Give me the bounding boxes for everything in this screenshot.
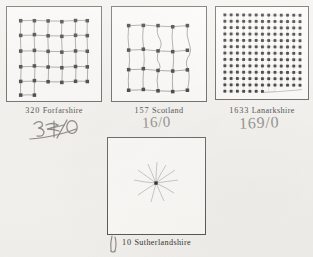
starburst-diagram-sutherlandshire	[108, 138, 205, 234]
figure-caption-forfarshire: 320Forfarshire	[6, 106, 102, 115]
figure-number: 1633	[229, 106, 249, 115]
figure-caption-scotland: 157Scotland	[111, 106, 207, 115]
figure-name: Lanarkshire	[252, 106, 295, 115]
figure-name: Forfarshire	[43, 106, 83, 115]
handwritten-annotation-forfarshire	[24, 116, 88, 144]
pencil-mark-sutherlandshire	[107, 234, 121, 254]
figure-caption-lanarkshire: 1633Lanarkshire	[215, 106, 309, 115]
lattice-diagram-forfarshire	[7, 7, 101, 101]
figure-name: Sutherlandshire	[134, 238, 191, 247]
lattice-nodes	[19, 19, 89, 97]
figure-caption-sutherlandshire: 10Sutherlandshire	[107, 238, 206, 247]
lattice-diagram-scotland	[112, 7, 206, 101]
scanned-page: 320Forfarshire	[0, 0, 313, 257]
handwritten-annotation-scotland: 16/0	[142, 113, 172, 131]
figure-number: 157	[135, 106, 150, 115]
figure-frame	[215, 6, 309, 100]
figure-frame	[6, 6, 102, 102]
dense-lattice-diagram-lanarkshire	[216, 7, 308, 99]
figure-frame	[107, 137, 206, 235]
figure-name: Scotland	[152, 106, 183, 115]
handwritten-annotation-lanarkshire: 169/0	[239, 113, 280, 132]
figure-frame	[111, 6, 207, 102]
figure-number: 10	[122, 238, 132, 247]
center-node	[154, 181, 157, 184]
figure-number: 320	[25, 106, 40, 115]
